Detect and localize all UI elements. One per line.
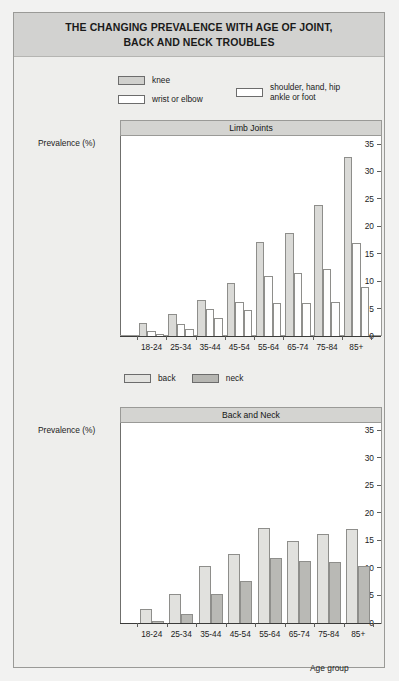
x-tick-mark: [285, 623, 286, 627]
x-tick-mark: [255, 623, 256, 627]
bar-wrist-45-54: [235, 302, 244, 336]
page-title: THE CHANGING PREVALENCE WITH AGE OF JOIN…: [49, 20, 348, 48]
x-axis-label-35-44: 35-44: [200, 629, 221, 639]
bar-back-18-24: [140, 609, 152, 623]
legend-label-shoulder-line1: shoulder, hand, hip: [270, 82, 340, 92]
x-tick-mark: [344, 623, 345, 627]
bars-group-chart2: [121, 423, 381, 623]
bar-shoul-55-64: [273, 303, 282, 336]
bar-wrist-55-64: [264, 276, 273, 336]
bar-knee-65-74: [285, 233, 294, 336]
x-tick-mark: [137, 623, 138, 627]
bar-neck-65-74: [299, 561, 311, 623]
y-axis-title-chart1: Prevalence (%): [38, 138, 95, 148]
bar-shoul-65-74: [302, 303, 311, 336]
x-axis-label-18-24: 18-24: [141, 629, 162, 639]
chart-title-back-and-neck: Back and Neck: [121, 408, 381, 423]
x-tick-mark: [373, 623, 374, 627]
x-axis-label-35-44: 35-44: [200, 342, 221, 352]
x-tick-mark: [283, 336, 284, 340]
bar-neck-45-54: [240, 581, 252, 623]
x-tick-mark: [313, 336, 314, 340]
bar-back-45-54: [228, 554, 240, 623]
x-tick-mark: [371, 336, 372, 340]
bar-back-55-64: [258, 528, 270, 623]
x-tick-mark: [196, 336, 197, 340]
x-tick-mark: [225, 336, 226, 340]
figure-title-line1: THE CHANGING PREVALENCE WITH AGE OF JOIN…: [65, 21, 332, 33]
bar-wrist-75-84: [323, 269, 332, 336]
x-axis-label-18-24: 18-24: [141, 342, 162, 352]
x-axis-label-75-84: 75-84: [318, 629, 339, 639]
bar-shoul-75-84: [331, 302, 340, 336]
x-tick-mark: [342, 336, 343, 340]
bar-back-35-44: [199, 566, 211, 623]
legend-label-wrist-or-elbow: wrist or elbow: [152, 94, 203, 104]
x-axis-label-25-34: 25-34: [171, 629, 192, 639]
x-axis-label-65-74: 65-74: [287, 342, 308, 352]
legend-item-back: back: [124, 373, 176, 383]
bar-neck-25-34: [181, 614, 193, 623]
bar-knee-75-84: [314, 205, 323, 336]
bar-shoul-35-44: [214, 318, 223, 336]
x-tick-mark: [137, 336, 138, 340]
chart-panel-limb-joints: Limb Joints 05101520253035 18-2425-3435-…: [120, 120, 382, 336]
bar-wrist-25-34: [177, 324, 186, 336]
legend-label-back: back: [158, 373, 176, 383]
legend-label-neck: neck: [226, 373, 244, 383]
figure-root: THE CHANGING PREVALENCE WITH AGE OF JOIN…: [0, 0, 399, 681]
bar-neck-55-64: [270, 558, 282, 623]
bar-shoul-25-34: [185, 329, 194, 336]
bar-knee-85+: [344, 157, 353, 336]
x-axis-label-45-54: 45-54: [229, 342, 250, 352]
x-tick-mark: [314, 623, 315, 627]
bar-back-25-34: [169, 594, 181, 623]
x-tick-mark: [226, 623, 227, 627]
y-axis-title-chart2: Prevalence (%): [38, 425, 95, 435]
legend-item-knee: knee: [118, 75, 203, 85]
legend-item-shoulder-hand-hip: shoulder, hand, hip ankle or foot: [236, 82, 340, 103]
x-axis-label-55-64: 55-64: [258, 342, 279, 352]
x-axis-label-65-74: 65-74: [289, 629, 310, 639]
plot-area-limb-joints: 05101520253035: [121, 136, 381, 335]
back-swatch-icon: [124, 374, 151, 383]
legend-limb-joints: knee wrist or elbow shoulder, hand, hip …: [118, 75, 388, 115]
wrist-or-elbow-swatch-icon: [118, 95, 145, 104]
figure-card: THE CHANGING PREVALENCE WITH AGE OF JOIN…: [13, 12, 385, 668]
plot-area-back-and-neck: 05101520253035: [121, 423, 381, 623]
x-axis-title-chart2: Age group: [310, 663, 349, 673]
bar-neck-35-44: [211, 594, 223, 623]
bar-wrist-85+: [352, 243, 361, 336]
bar-knee-45-54: [227, 283, 236, 336]
x-tick-mark: [166, 336, 167, 340]
bar-knee-35-44: [197, 300, 206, 336]
bar-back-85+: [346, 529, 358, 623]
x-tick-mark: [167, 623, 168, 627]
x-axis-line-chart2: [120, 623, 381, 624]
chart-panel-back-and-neck: Back and Neck 05101520253035 18-2425-343…: [120, 407, 382, 624]
bar-wrist-35-44: [206, 309, 215, 336]
legend-item-wrist-or-elbow: wrist or elbow: [118, 94, 203, 104]
bar-knee-25-34: [168, 314, 177, 336]
bars-group-chart1: [121, 136, 381, 335]
bar-wrist-65-74: [294, 273, 303, 336]
x-axis-label-85+: 85+: [349, 342, 363, 352]
x-axis-label-45-54: 45-54: [230, 629, 251, 639]
chart-title-limb-joints: Limb Joints: [121, 121, 381, 136]
legend-item-neck: neck: [192, 373, 244, 383]
neck-swatch-icon: [192, 374, 219, 383]
bar-back-65-74: [287, 541, 299, 623]
knee-swatch-icon: [118, 76, 145, 85]
bar-knee-55-64: [256, 242, 265, 336]
legend-label-knee: knee: [152, 75, 170, 85]
figure-title-line2: BACK AND NECK TROUBLES: [65, 35, 332, 49]
bar-neck-85+: [358, 566, 370, 623]
legend-back-and-neck: back neck: [124, 373, 257, 385]
legend-label-shoulder-line2: ankle or foot: [270, 92, 316, 102]
bar-neck-75-84: [329, 562, 341, 623]
legend-label-shoulder-hand-hip: shoulder, hand, hip ankle or foot: [270, 82, 340, 103]
bar-back-75-84: [317, 534, 329, 623]
x-axis-label-85+: 85+: [351, 629, 365, 639]
x-axis-label-55-64: 55-64: [259, 629, 280, 639]
x-tick-mark: [254, 336, 255, 340]
